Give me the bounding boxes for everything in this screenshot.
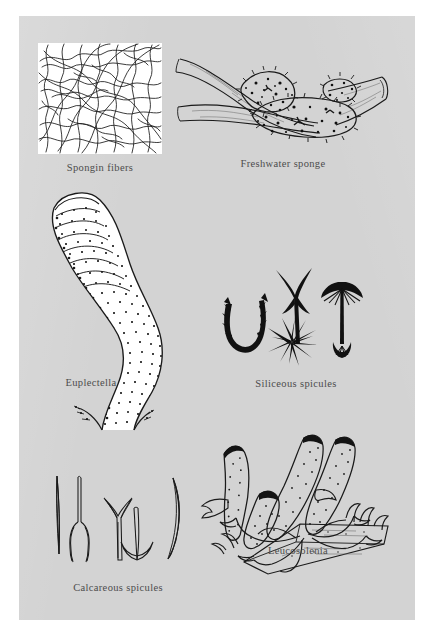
caption-euplectella: Euplectella <box>36 378 146 389</box>
caption-spongin-fibers: Spongin fibers <box>38 163 162 174</box>
spicule-tuning-fork <box>70 476 89 562</box>
sponge-lobe-small <box>320 72 361 107</box>
spicule-triradiate <box>104 498 132 560</box>
osculum-dark-4 <box>259 491 279 501</box>
caption-leucosolenia: Leucosolenia <box>218 546 378 557</box>
spicule-curved-needle <box>168 478 179 559</box>
osculum-dark-1 <box>335 437 355 447</box>
siliceous-spicules-artwork <box>212 262 380 372</box>
figure-freshwater-sponge: Freshwater sponge <box>176 55 390 151</box>
spicule-anchor <box>121 507 153 560</box>
osculum-dark-2 <box>303 435 323 445</box>
spicule-aster <box>268 317 318 366</box>
leucosolenia-tube-1 <box>306 437 355 534</box>
euplectella-artwork <box>40 188 185 433</box>
caption-siliceous-spicules: Siliceous spicules <box>212 379 380 390</box>
figure-siliceous-spicules: Siliceous spicules <box>212 262 380 372</box>
caption-freshwater-sponge: Freshwater sponge <box>176 159 390 170</box>
spicule-straight-needle <box>57 476 60 554</box>
spicule-triaxon <box>276 268 312 344</box>
calcareous-spicules-artwork <box>48 472 188 572</box>
caption-calcareous-spicules: Calcareous spicules <box>38 583 198 594</box>
spicule-umbrella-anchor <box>321 282 363 358</box>
spicule-barbed-u-hook <box>222 293 268 353</box>
spongin-fibers-inset-box <box>38 43 162 154</box>
figure-calcareous-spicules: Calcareous spicules <box>48 472 188 572</box>
freshwater-sponge-artwork <box>176 55 390 151</box>
figure-plate: Spongin fibers <box>0 0 432 634</box>
figure-leucosolenia: Leucosolenia <box>196 426 392 578</box>
twig-right-branch <box>328 77 388 125</box>
spongin-fibers-artwork <box>38 43 162 154</box>
figure-euplectella: Euplectella <box>40 188 185 433</box>
osculum-dark-3 <box>222 444 245 459</box>
